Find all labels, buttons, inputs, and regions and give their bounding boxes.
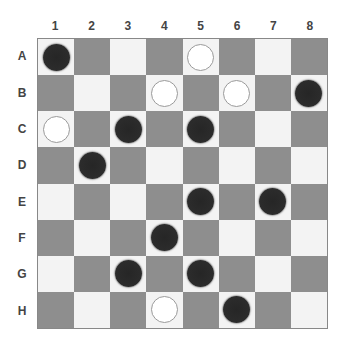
column-label: 6 xyxy=(219,18,255,34)
black-piece[interactable] xyxy=(43,44,70,71)
board-square-H8[interactable] xyxy=(291,292,327,328)
board-square-A7[interactable] xyxy=(255,39,291,75)
board-square-F5[interactable] xyxy=(183,220,219,256)
board-square-C8[interactable] xyxy=(291,111,327,147)
board-square-H6[interactable] xyxy=(219,292,255,328)
board-square-D5[interactable] xyxy=(183,147,219,183)
board-square-H5[interactable] xyxy=(183,292,219,328)
board-square-E5[interactable] xyxy=(183,184,219,220)
board-square-B2[interactable] xyxy=(74,75,110,111)
board-square-F8[interactable] xyxy=(291,220,327,256)
column-label: 5 xyxy=(183,18,219,34)
white-piece[interactable] xyxy=(151,80,178,107)
white-piece[interactable] xyxy=(187,44,214,71)
board-square-A6[interactable] xyxy=(219,39,255,75)
board-square-F2[interactable] xyxy=(74,220,110,256)
row-label: E xyxy=(12,184,32,220)
column-label: 8 xyxy=(292,18,328,34)
black-piece[interactable] xyxy=(115,116,142,143)
black-piece[interactable] xyxy=(151,224,178,251)
black-piece[interactable] xyxy=(259,188,286,215)
board-square-H3[interactable] xyxy=(110,292,146,328)
board-square-D2[interactable] xyxy=(74,147,110,183)
black-piece[interactable] xyxy=(223,296,250,323)
board-square-E8[interactable] xyxy=(291,184,327,220)
board-square-A2[interactable] xyxy=(74,39,110,75)
board-square-C2[interactable] xyxy=(74,111,110,147)
row-label: H xyxy=(12,293,32,329)
board-square-H2[interactable] xyxy=(74,292,110,328)
board-square-C4[interactable] xyxy=(146,111,182,147)
row-label: C xyxy=(12,111,32,147)
black-piece[interactable] xyxy=(295,80,322,107)
board-square-E6[interactable] xyxy=(219,184,255,220)
board-square-D7[interactable] xyxy=(255,147,291,183)
board-square-G7[interactable] xyxy=(255,256,291,292)
board-square-D3[interactable] xyxy=(110,147,146,183)
black-piece[interactable] xyxy=(187,188,214,215)
board-square-F4[interactable] xyxy=(146,220,182,256)
white-piece[interactable] xyxy=(151,296,178,323)
black-piece[interactable] xyxy=(79,152,106,179)
board-square-B1[interactable] xyxy=(38,75,74,111)
board-square-E1[interactable] xyxy=(38,184,74,220)
board-square-G8[interactable] xyxy=(291,256,327,292)
board-square-E3[interactable] xyxy=(110,184,146,220)
board-square-G3[interactable] xyxy=(110,256,146,292)
board-square-G4[interactable] xyxy=(146,256,182,292)
board-square-D8[interactable] xyxy=(291,147,327,183)
row-label: B xyxy=(12,74,32,110)
board-square-D6[interactable] xyxy=(219,147,255,183)
board-square-D1[interactable] xyxy=(38,147,74,183)
board-square-A8[interactable] xyxy=(291,39,327,75)
row-labels: A B C D E F G H xyxy=(12,38,32,329)
board-square-C5[interactable] xyxy=(183,111,219,147)
board-square-B5[interactable] xyxy=(183,75,219,111)
board-square-G6[interactable] xyxy=(219,256,255,292)
board-square-D4[interactable] xyxy=(146,147,182,183)
board-square-C6[interactable] xyxy=(219,111,255,147)
board-square-B7[interactable] xyxy=(255,75,291,111)
board-square-A3[interactable] xyxy=(110,39,146,75)
board-square-E2[interactable] xyxy=(74,184,110,220)
board-square-F7[interactable] xyxy=(255,220,291,256)
board-square-F3[interactable] xyxy=(110,220,146,256)
column-label: 4 xyxy=(146,18,182,34)
board-square-H1[interactable] xyxy=(38,292,74,328)
board-square-E4[interactable] xyxy=(146,184,182,220)
black-piece[interactable] xyxy=(187,116,214,143)
column-label: 3 xyxy=(110,18,146,34)
board-square-B4[interactable] xyxy=(146,75,182,111)
row-label: G xyxy=(12,256,32,292)
row-label: F xyxy=(12,220,32,256)
white-piece[interactable] xyxy=(43,116,70,143)
board-square-G1[interactable] xyxy=(38,256,74,292)
column-labels: 1 2 3 4 5 6 7 8 xyxy=(37,18,328,34)
board-square-A1[interactable] xyxy=(38,39,74,75)
black-piece[interactable] xyxy=(115,260,142,287)
board-square-B6[interactable] xyxy=(219,75,255,111)
board-square-G5[interactable] xyxy=(183,256,219,292)
board-square-C1[interactable] xyxy=(38,111,74,147)
white-piece[interactable] xyxy=(223,80,250,107)
board-square-H4[interactable] xyxy=(146,292,182,328)
board-square-A5[interactable] xyxy=(183,39,219,75)
row-label: A xyxy=(12,38,32,74)
column-label: 7 xyxy=(255,18,291,34)
board-square-A4[interactable] xyxy=(146,39,182,75)
board-square-C7[interactable] xyxy=(255,111,291,147)
column-label: 2 xyxy=(73,18,109,34)
board-square-B8[interactable] xyxy=(291,75,327,111)
board-square-F1[interactable] xyxy=(38,220,74,256)
board-square-E7[interactable] xyxy=(255,184,291,220)
game-board xyxy=(37,38,328,329)
board-square-C3[interactable] xyxy=(110,111,146,147)
board-square-G2[interactable] xyxy=(74,256,110,292)
row-label: D xyxy=(12,147,32,183)
board-square-F6[interactable] xyxy=(219,220,255,256)
board-square-B3[interactable] xyxy=(110,75,146,111)
board-square-H7[interactable] xyxy=(255,292,291,328)
black-piece[interactable] xyxy=(187,260,214,287)
column-label: 1 xyxy=(37,18,73,34)
